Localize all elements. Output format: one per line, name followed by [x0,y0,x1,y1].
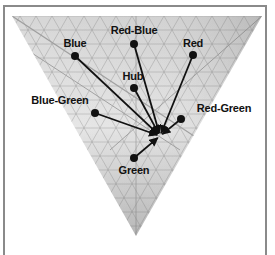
node-dot-red [189,51,197,59]
node-label-blue: Blue [63,37,86,49]
node-label-green: Green [119,164,150,176]
node-label-blue-green: Blue-Green [31,94,88,106]
node-label-red-blue: Red-Blue [111,24,158,36]
node-label-hub: Hub [123,70,144,82]
node-dot-blue-green [91,109,99,117]
node-dot-hub [130,84,138,92]
node-dot-red-green [177,115,185,123]
node-dot-green [130,154,138,162]
node-dot-red-blue [130,40,138,48]
node-label-red-green: Red-Green [197,102,251,114]
node-label-red: Red [183,37,203,49]
node-dot-blue [71,52,79,60]
